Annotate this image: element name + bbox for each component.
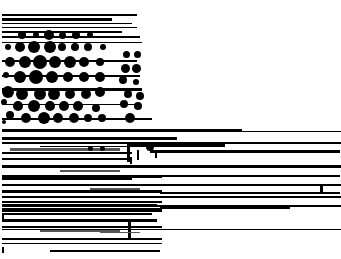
halftone-dot	[79, 72, 89, 82]
halftone-dot	[84, 43, 92, 51]
glitch-streak-gray	[60, 170, 120, 172]
halftone-dot	[28, 41, 40, 53]
halftone-dot	[63, 72, 73, 82]
halftone-dot	[13, 101, 23, 111]
halftone-dot	[95, 72, 105, 82]
halftone-dot	[45, 101, 55, 111]
halftone-dot	[123, 51, 130, 58]
glitch-streak	[2, 137, 177, 140]
halftone-dot	[92, 104, 100, 112]
halftone-dot	[2, 86, 14, 98]
halftone-dot	[125, 113, 135, 123]
glitch-streak	[50, 250, 160, 252]
halftone-dot	[16, 88, 28, 100]
halftone-dot	[146, 143, 154, 151]
halftone-dot	[5, 44, 11, 50]
glitch-streak	[160, 175, 340, 177]
glitch-streak	[2, 14, 137, 16]
glitch-streak	[155, 150, 157, 158]
glitch-streak-gray	[90, 188, 140, 190]
halftone-dot	[3, 72, 9, 78]
glitch-streak	[320, 186, 323, 192]
glitch-streak	[2, 208, 162, 212]
glitch-streak	[137, 150, 139, 160]
halftone-dot	[119, 76, 127, 84]
halftone-dot	[21, 113, 31, 123]
glitch-streak	[2, 18, 112, 21]
halftone-dot	[46, 71, 58, 83]
halftone-dot	[88, 146, 93, 151]
glitch-streak	[128, 220, 131, 240]
halftone-dot	[2, 120, 6, 124]
halftone-dot	[38, 112, 50, 124]
halftone-dot	[33, 32, 39, 38]
glitch-streak	[2, 165, 341, 168]
glitch-streak	[12, 226, 82, 228]
halftone-dot	[71, 43, 79, 51]
glitch-streak	[2, 178, 132, 180]
halftone-dot	[100, 44, 106, 50]
halftone-dot	[48, 88, 60, 100]
halftone-dot	[58, 43, 66, 51]
glitch-streak	[215, 151, 335, 153]
halftone-dot	[100, 146, 105, 151]
halftone-dot	[44, 30, 54, 40]
glitch-streak-gray	[100, 232, 140, 233]
halftone-dot	[87, 32, 93, 38]
glitch-streak	[127, 142, 130, 162]
halftone-dot	[95, 87, 105, 97]
halftone-dot	[1, 99, 7, 105]
halftone-dot	[73, 101, 83, 111]
halftone-dot	[120, 100, 128, 108]
halftone-dot	[136, 92, 144, 100]
halftone-dot	[28, 100, 40, 112]
glitch-streak	[130, 157, 132, 164]
glitch-streak	[2, 219, 157, 222]
halftone-dot	[49, 56, 61, 68]
halftone-dot	[33, 55, 47, 69]
halftone-dot	[18, 31, 26, 39]
halftone-dot	[15, 42, 25, 52]
glitch-streak	[130, 143, 225, 147]
glitch-streak	[2, 184, 341, 186]
halftone-dot	[59, 101, 69, 111]
halftone-dot	[79, 57, 89, 67]
glitch-streak	[2, 213, 4, 220]
glitch-streak	[2, 204, 157, 206]
halftone-dot	[121, 64, 130, 73]
halftone-dot	[65, 89, 75, 99]
glitch-streak	[2, 243, 162, 244]
halftone-dot	[134, 51, 141, 58]
halftone-dot	[6, 111, 14, 119]
halftone-dot	[98, 114, 106, 122]
glitch-streak	[2, 27, 137, 28]
halftone-dot	[29, 70, 43, 84]
glitch-streak	[2, 247, 4, 253]
glitch-streak	[2, 201, 162, 203]
halftone-dot	[14, 71, 26, 83]
glitch-streak	[160, 206, 290, 209]
glitched-image-canvas	[0, 0, 341, 259]
halftone-dot	[72, 31, 80, 39]
glitch-streak	[2, 196, 341, 198]
halftone-dot	[84, 114, 92, 122]
glitch-streak	[2, 158, 132, 160]
halftone-dot	[59, 32, 66, 39]
glitch-streak	[160, 192, 340, 194]
glitch-streak	[2, 213, 152, 215]
halftone-dot	[53, 113, 63, 123]
halftone-dot	[5, 57, 15, 67]
halftone-dot	[34, 88, 46, 100]
halftone-dot	[134, 102, 142, 110]
glitch-streak	[2, 152, 132, 154]
halftone-dot	[69, 113, 79, 123]
glitch-streak	[2, 190, 162, 193]
halftone-dot	[132, 64, 141, 73]
glitch-streak	[2, 131, 341, 132]
halftone-dot	[96, 58, 104, 66]
halftone-dot	[124, 90, 132, 98]
glitch-streak	[2, 238, 162, 240]
halftone-dot	[64, 56, 76, 68]
halftone-dot	[44, 41, 56, 53]
halftone-dot	[81, 89, 91, 99]
